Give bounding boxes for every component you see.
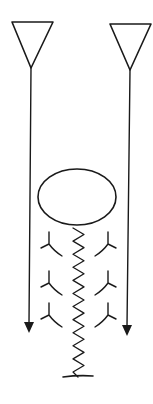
right-antenna-group — [110, 24, 151, 336]
zigzag-spring — [73, 228, 84, 377]
left-vertical-line — [29, 68, 31, 323]
body-ellipse — [38, 169, 116, 225]
right-receptor-icon-1 — [95, 232, 116, 256]
right-receptor-icon-2 — [95, 271, 116, 295]
left-receptor-icon-2 — [41, 271, 62, 295]
left-receptor-icon-1 — [41, 232, 62, 256]
receptors-group — [41, 232, 116, 327]
right-arrowhead-icon — [122, 325, 132, 336]
left-triangle-icon — [12, 22, 53, 68]
left-antenna-group — [12, 22, 53, 333]
right-receptor-icon-3 — [95, 303, 116, 327]
left-receptor-icon-3 — [41, 303, 62, 327]
right-vertical-line — [127, 70, 130, 326]
schematic-diagram — [0, 0, 153, 404]
right-triangle-icon — [110, 24, 151, 70]
left-arrowhead-icon — [24, 322, 34, 333]
